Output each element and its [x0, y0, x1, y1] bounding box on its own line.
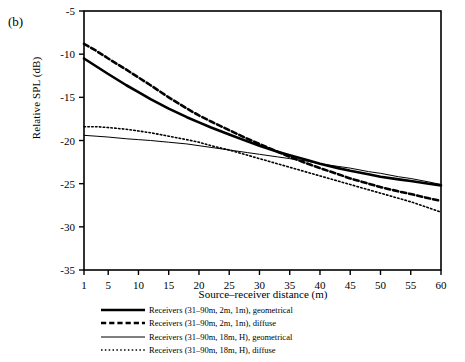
y-tick-label: -15 [60, 91, 75, 103]
legend-line-swatch [100, 331, 146, 343]
legend-item: Receivers (31–90m, 18m, H), diffuse [100, 344, 400, 358]
x-tick-label: 10 [133, 279, 145, 291]
x-tick-label: 15 [163, 279, 175, 291]
x-tick-label: 60 [436, 279, 448, 291]
x-tick-label: 55 [405, 279, 417, 291]
x-tick-label: 20 [193, 279, 205, 291]
legend-item: Receivers (31–90m, 18m, H), geometrical [100, 330, 400, 344]
legend-label: Receivers (31–90m, 18m, H), diffuse [146, 345, 276, 355]
legend-label: Receivers (31–90m, 2m, 1m), geometrical [146, 305, 293, 315]
x-tick-label: 35 [284, 279, 296, 291]
x-tick-label: 30 [254, 279, 266, 291]
x-tick-label: 50 [375, 279, 387, 291]
plot-frame [84, 11, 441, 270]
plot-area: -5-10-15-20-25-30-3515101520253035404550… [0, 0, 465, 300]
y-tick-label: -5 [66, 5, 76, 17]
x-tick-label: 40 [314, 279, 326, 291]
chart-legend: Receivers (31–90m, 2m, 1m), geometricalR… [100, 303, 400, 357]
y-tick-label: -25 [60, 178, 75, 190]
legend-label: Receivers (31–90m, 18m, H), geometrical [146, 332, 292, 342]
y-tick-label: -30 [60, 221, 75, 233]
legend-item: Receivers (31–90m, 2m, 1m), geometrical [100, 303, 400, 317]
x-tick-label: 5 [105, 279, 111, 291]
y-tick-label: -20 [60, 135, 75, 147]
x-tick-label: 1 [81, 279, 87, 291]
x-tick-label: 45 [345, 279, 357, 291]
y-tick-label: -35 [60, 264, 75, 276]
legend-item: Receivers (31–90m, 2m, 1m), diffuse [100, 317, 400, 331]
y-tick-label: -10 [60, 48, 75, 60]
legend-line-swatch [100, 344, 146, 356]
chart-figure: (b) Relative SPL (dB) Source–receiver di… [0, 0, 465, 362]
legend-label: Receivers (31–90m, 2m, 1m), diffuse [146, 318, 276, 328]
legend-line-swatch [100, 304, 146, 316]
legend-line-swatch [100, 317, 146, 329]
x-tick-label: 25 [224, 279, 236, 291]
